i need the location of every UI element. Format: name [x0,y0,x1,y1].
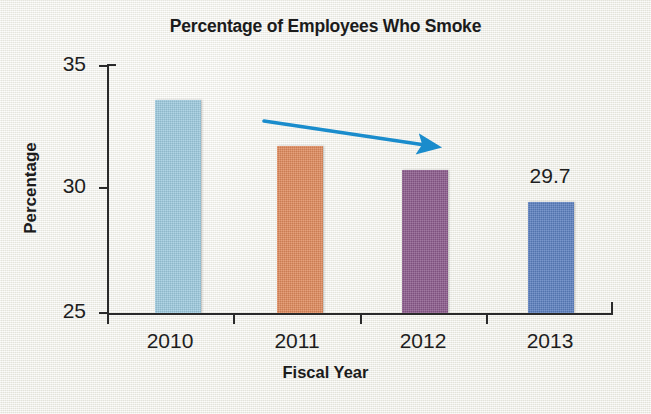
bar-chart: Percentage of Employees Who Smoke 35 30 … [0,0,651,414]
downward-trend-arrow-icon [0,0,651,414]
